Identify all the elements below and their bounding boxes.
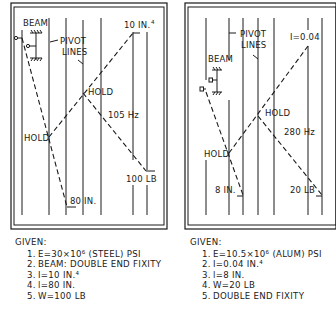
right-pivot-label-1: PIVOT <box>240 29 267 39</box>
right-inertia-label: I=0.04 <box>290 32 320 42</box>
left-given-block: GIVEN: 1.E=30×10⁶ (STEEL) PSI 2.BEAM: DO… <box>15 237 161 302</box>
left-given-title: GIVEN: <box>15 237 161 248</box>
left-pivot-label-1: PIVOT <box>60 36 87 46</box>
left-inertia-label: 10 IN. <box>124 20 150 30</box>
right-given-item: 5.DOUBLE END FIXITY <box>202 291 322 302</box>
left-given-item: 5.W=100 LB <box>27 291 161 302</box>
left-given-list: 1.E=30×10⁶ (STEEL) PSI 2.BEAM: DOUBLE EN… <box>15 249 161 302</box>
left-given-item: 3.I=10 IN.⁴ <box>27 270 161 281</box>
right-given-item: 4.W=20 LB <box>202 280 322 291</box>
right-given-item: 1.E=10.5×10⁶ (ALUM) PSI <box>202 249 322 260</box>
right-weight-label: 20 LB <box>290 185 315 195</box>
left-beam-label: BEAM <box>23 18 48 28</box>
right-frequency-label: 280 Hz <box>284 127 315 137</box>
right-hold-lower: HOLD <box>204 149 229 159</box>
right-length-label: 8 IN. <box>215 185 236 195</box>
left-pivot-label-2: LINES <box>62 47 87 57</box>
right-given-item: 3.l=8 IN. <box>202 270 322 281</box>
left-hold-lower: HOLD <box>24 133 49 143</box>
left-given-item: 2.BEAM: DOUBLE END FIXITY <box>27 259 161 270</box>
right-given-list: 1.E=10.5×10⁶ (ALUM) PSI 2.I=0.04 IN.⁴ 3.… <box>190 249 322 302</box>
right-pivot-label-2: LINES <box>241 40 266 50</box>
right-given-item: 2.I=0.04 IN.⁴ <box>202 259 322 270</box>
left-inertia-sup: 4 <box>151 19 155 25</box>
left-length-label: 80 IN. <box>70 196 96 206</box>
left-weight-label: 100 LB <box>126 174 157 184</box>
right-hold-upper: HOLD <box>265 108 290 118</box>
right-beam-icon <box>200 67 222 95</box>
right-construction-lines <box>206 46 322 195</box>
right-beam-label: BEAM <box>208 54 233 64</box>
left-frequency-label: 105 Hz <box>108 110 139 120</box>
right-given-block: GIVEN: 1.E=10.5×10⁶ (ALUM) PSI 2.I=0.04 … <box>190 237 322 302</box>
left-pivot-pointer <box>50 40 58 42</box>
left-given-item: 4.l=80 IN. <box>27 280 161 291</box>
left-hold-upper: HOLD <box>88 87 113 97</box>
right-given-title: GIVEN: <box>190 237 322 248</box>
left-given-item: 1.E=30×10⁶ (STEEL) PSI <box>27 249 161 260</box>
left-beam-icon <box>14 30 42 61</box>
